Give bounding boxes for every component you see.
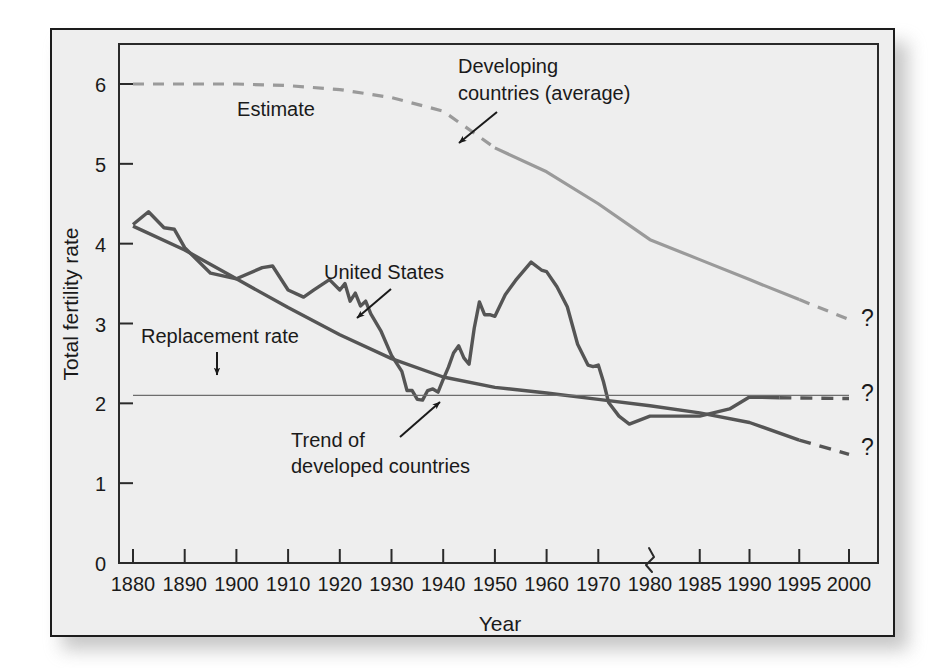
x-axis-tick-label-1930: 1930 [369, 573, 414, 595]
y-axis-tick-label-6: 6 [95, 74, 106, 96]
y-axis-tick-label-5: 5 [95, 154, 106, 176]
x-axis-tick-label-2000: 2000 [827, 573, 872, 595]
x-axis-break-marker [646, 548, 654, 572]
fertility-rate-chart: 0123456 18801890190019101920193019401950… [0, 0, 944, 668]
annotation-estimate: Estimate [237, 98, 315, 120]
series-united-states [133, 212, 849, 424]
y-axis-tick-label-2: 2 [95, 393, 106, 415]
series-segment-dashed [799, 440, 849, 454]
x-axis-tick-label-1995: 1995 [777, 573, 822, 595]
x-axis-tick-label-1900: 1900 [214, 573, 259, 595]
annotation-developing-countries-arrow [459, 112, 497, 143]
series-layer [133, 84, 849, 454]
x-axis-tick-label-1985: 1985 [678, 573, 723, 595]
x-axis-tick-label-1970: 1970 [576, 573, 621, 595]
x-axis-tick-label-1990: 1990 [727, 573, 772, 595]
qmark-developing: ? [861, 305, 874, 331]
annotation-trend-developed-arrow [400, 402, 440, 437]
series-segment-solid [133, 212, 779, 424]
x-axis-title: Year [479, 612, 521, 635]
series-segment-dashed [799, 300, 849, 320]
y-axis-tick-label-0: 0 [95, 553, 106, 575]
plot-area-border [119, 44, 878, 563]
x-axis-tick-label-1890: 1890 [162, 573, 207, 595]
x-axis-tick-label-1880: 1880 [111, 573, 156, 595]
y-axis-tick-label-1: 1 [95, 473, 106, 495]
x-axis: 1880189019001910192019301940195019601970… [111, 549, 872, 595]
y-axis-tick-label-4: 4 [95, 234, 106, 256]
y-axis-title: Total fertility rate [59, 228, 82, 381]
figure-root: 0123456 18801890190019101920193019401950… [0, 0, 944, 668]
annotation-united-states: United States [324, 261, 444, 283]
x-axis-tick-label-1960: 1960 [524, 573, 569, 595]
series-segment-dashed [779, 398, 849, 399]
annotation-developing-countries-line2: countries (average) [458, 82, 630, 104]
y-axis: 0123456 [95, 74, 133, 575]
series-segment-solid [495, 148, 799, 300]
question-mark-layer: ? ? ? [861, 305, 874, 460]
qmark-developed: ? [861, 434, 874, 460]
y-axis-tick-label-3: 3 [95, 314, 106, 336]
x-axis-tick-label-1980: 1980 [628, 573, 673, 595]
x-axis-tick-label-1910: 1910 [266, 573, 311, 595]
annotation-trend-developed-line2: developed countries [291, 455, 470, 477]
x-axis-tick-label-1920: 1920 [318, 573, 363, 595]
x-axis-tick-label-1940: 1940 [421, 573, 466, 595]
qmark-us: ? [861, 380, 874, 406]
annotation-trend-developed-line1: Trend of [291, 429, 365, 451]
x-axis-tick-label-1950: 1950 [473, 573, 518, 595]
annotation-developing-countries-line1: Developing [458, 55, 558, 77]
annotation-replacement-rate: Replacement rate [141, 325, 299, 347]
